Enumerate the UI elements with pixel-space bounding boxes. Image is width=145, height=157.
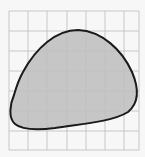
- grid-figure: [0, 0, 145, 157]
